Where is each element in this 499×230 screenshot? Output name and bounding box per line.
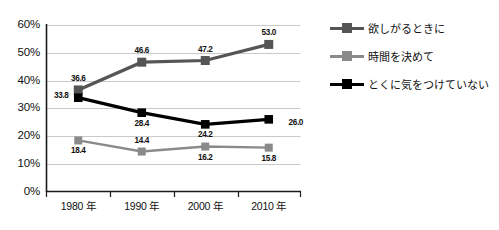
y-axis-tick-label: 40% — [0, 74, 40, 86]
data-point-value-label: 18.4 — [61, 146, 95, 155]
x-axis-tick-label: 2000 年 — [173, 198, 237, 213]
data-point-marker — [201, 120, 210, 129]
legend-swatch-icon — [330, 50, 364, 62]
data-point-value-label: 14.4 — [125, 136, 159, 145]
data-point-marker — [138, 148, 146, 156]
y-axis-tick-label: 60% — [0, 18, 40, 30]
data-point-value-label: 28.4 — [125, 119, 159, 128]
data-point-value-label: 46.6 — [125, 46, 159, 55]
y-axis-tick-label: 30% — [0, 101, 40, 113]
y-axis-tick-label: 20% — [0, 129, 40, 141]
data-point-value-label: 53.0 — [252, 28, 286, 37]
x-axis-tick-label: 1990 年 — [110, 198, 174, 213]
data-point-value-label: 26.0 — [279, 118, 313, 127]
data-point-value-label: 15.8 — [252, 154, 286, 163]
series-layer — [74, 40, 274, 156]
x-axis-tick-label: 1980 年 — [46, 198, 110, 213]
y-axis-tick-label: 50% — [0, 46, 40, 58]
legend-item-2[interactable]: とくに気をつけていない — [330, 70, 498, 98]
data-point-marker — [264, 115, 273, 124]
series-line — [78, 98, 269, 125]
legend-label: 時間を決めて — [364, 48, 434, 64]
data-point-value-label: 47.2 — [188, 45, 222, 54]
data-point-value-label: 33.8 — [44, 91, 78, 100]
data-point-value-label: 36.6 — [61, 74, 95, 83]
data-point-marker — [201, 56, 210, 65]
x-axis-tick-label: 2010 年 — [237, 198, 301, 213]
axis-lines — [46, 24, 301, 197]
data-point-marker — [137, 58, 146, 67]
legend-swatch-icon — [330, 78, 364, 90]
legend-label: とくに気をつけていない — [364, 76, 489, 92]
data-point-marker — [74, 136, 82, 144]
legend-label: 欲しがるときに — [364, 20, 445, 36]
data-point-marker — [201, 143, 209, 151]
chart-container: 0%10%20%30%40%50%60% 1980 年1990 年2000 年2… — [0, 0, 499, 230]
series-line — [78, 140, 269, 151]
y-axis-tick-label: 0% — [0, 185, 40, 197]
chart-legend: 欲しがるときに 時間を決めて とくに気をつけていない — [330, 14, 498, 98]
series-line — [78, 44, 269, 90]
data-point-marker — [137, 108, 146, 117]
y-axis-tick-label: 10% — [0, 157, 40, 169]
legend-item-0[interactable]: 欲しがるときに — [330, 14, 498, 42]
data-point-marker — [264, 40, 273, 49]
data-point-marker — [265, 144, 273, 152]
legend-swatch-icon — [330, 22, 364, 34]
legend-item-1[interactable]: 時間を決めて — [330, 42, 498, 70]
data-point-value-label: 24.2 — [188, 130, 222, 139]
data-point-value-label: 16.2 — [188, 153, 222, 162]
